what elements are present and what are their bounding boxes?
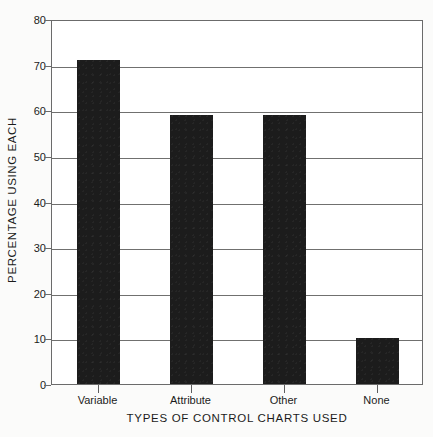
- y-axis-title-text: PERCENTAGE USING EACH: [6, 117, 18, 283]
- y-axis-tick-label: 20: [24, 288, 46, 300]
- x-axis-tick-mark: [98, 385, 99, 393]
- y-axis-tick-mark: [44, 20, 51, 21]
- x-axis-tick-label: None: [363, 394, 389, 406]
- y-axis-tick-label: 80: [24, 14, 46, 26]
- x-axis-tick-label: Variable: [78, 394, 118, 406]
- y-axis-tick-label: 40: [24, 197, 46, 209]
- y-axis-tick-mark: [44, 157, 51, 158]
- y-axis-tick-mark: [44, 66, 51, 67]
- y-axis-tick-label: 10: [24, 333, 46, 345]
- bar: [170, 115, 213, 384]
- y-axis-tick-mark: [44, 294, 51, 295]
- chart-figure: PERCENTAGE USING EACH 01020304050607080 …: [0, 0, 433, 437]
- bar: [77, 60, 120, 384]
- y-axis-tick-mark: [44, 248, 51, 249]
- y-axis-tick-label: 0: [24, 379, 46, 391]
- plot-area: [51, 20, 423, 385]
- bar: [356, 338, 399, 384]
- y-axis-tick-label: 70: [24, 60, 46, 72]
- y-axis-tick-mark: [44, 385, 51, 386]
- x-axis-tick-mark: [284, 385, 285, 393]
- x-axis-title: TYPES OF CONTROL CHARTS USED: [51, 412, 423, 424]
- x-axis-tick-label: Other: [270, 394, 298, 406]
- x-axis-tick-mark: [191, 385, 192, 393]
- bar: [263, 115, 306, 384]
- y-axis-tick-label: 60: [24, 105, 46, 117]
- y-axis-tick-label: 30: [24, 242, 46, 254]
- y-axis-tick-label: 50: [24, 151, 46, 163]
- y-axis-tick-mark: [44, 339, 51, 340]
- x-axis-tick-label: Attribute: [170, 394, 211, 406]
- y-axis-tick-mark: [44, 111, 51, 112]
- y-axis-tick-labels: 01020304050607080: [20, 0, 46, 437]
- x-axis-tick-mark: [377, 385, 378, 393]
- y-axis-tick-mark: [44, 203, 51, 204]
